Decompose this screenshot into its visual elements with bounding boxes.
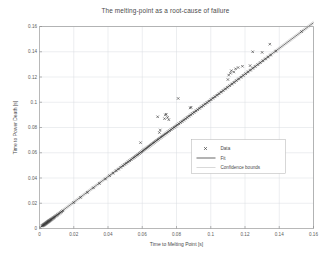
data-point — [156, 116, 159, 119]
data-point — [241, 65, 244, 68]
data-point — [229, 72, 232, 75]
data-point — [139, 141, 142, 144]
legend-label: Data — [221, 146, 231, 151]
y-tick-label: 0.04 — [28, 176, 37, 181]
y-axis-title: Time to Power Death [s] — [12, 100, 18, 154]
figure-canvas: The melting-point as a root-cause of fai… — [0, 0, 331, 260]
data-point — [159, 129, 162, 132]
data-point — [227, 78, 230, 81]
y-tick-label: 0.1 — [31, 100, 38, 105]
data-point — [269, 43, 272, 46]
x-axis-title: Time to Melting Point [s] — [150, 241, 204, 247]
data-point — [237, 66, 240, 69]
y-axis-tick-labels: 00.020.040.060.080.10.120.140.16 — [28, 24, 42, 231]
x-tick-label: 0.02 — [69, 232, 78, 237]
legend-label: Confidence bounds — [221, 165, 261, 170]
x-axis-tick-labels: 00.020.040.060.080.10.120.140.16 — [38, 226, 318, 237]
y-tick-label: 0.12 — [28, 75, 37, 80]
y-tick-label: 0.02 — [28, 201, 37, 206]
y-tick-label: 0.16 — [28, 24, 37, 29]
grid-lines — [40, 27, 314, 229]
data-point — [300, 30, 303, 33]
x-tick-label: 0.12 — [241, 232, 250, 237]
data-point — [158, 131, 161, 134]
y-tick-label: 0.14 — [28, 49, 37, 54]
x-tick-label: 0.06 — [138, 232, 147, 237]
data-point — [168, 118, 171, 121]
y-tick-label: 0 — [34, 226, 37, 231]
x-tick-label: 0.08 — [172, 232, 181, 237]
x-tick-label: 0.14 — [275, 232, 284, 237]
data-point — [166, 116, 169, 119]
data-point — [233, 71, 236, 74]
x-tick-label: 0.16 — [309, 232, 318, 237]
data-point — [163, 117, 166, 120]
x-tick-label: 0.1 — [208, 232, 215, 237]
y-tick-label: 0.08 — [28, 125, 37, 130]
data-point — [190, 106, 193, 109]
y-tick-label: 0.06 — [28, 150, 37, 155]
data-point — [249, 64, 252, 67]
data-point — [177, 97, 180, 100]
data-point — [165, 113, 168, 116]
data-point — [234, 68, 237, 71]
scatter-plot: 00.020.040.060.080.10.120.140.16 00.020.… — [0, 0, 331, 260]
chart-legend: DataFitConfidence bounds — [192, 140, 286, 174]
x-tick-label: 0 — [38, 232, 41, 237]
data-point — [230, 69, 233, 72]
legend-label: Fit — [221, 156, 227, 161]
x-tick-label: 0.04 — [104, 232, 113, 237]
